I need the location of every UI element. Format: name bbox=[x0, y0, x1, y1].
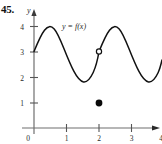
y-tick-label-1: 1 bbox=[20, 99, 24, 108]
y-axis-arrowhead bbox=[31, 9, 36, 16]
x-tick-label-3: 3 bbox=[130, 134, 134, 143]
x-tick-label-4: 4 bbox=[159, 134, 162, 143]
y-tick-label-3: 3 bbox=[20, 48, 24, 57]
x-tick-label-2: 2 bbox=[97, 134, 101, 143]
function-curve-left-branch bbox=[34, 27, 99, 82]
graph-plot: y 4 3 2 1 1 2 3 4 0 y = f(x) bbox=[0, 0, 162, 144]
y-tick-label-4: 4 bbox=[20, 23, 24, 32]
origin-label: 0 bbox=[26, 134, 30, 143]
open-circle-marker bbox=[96, 49, 101, 54]
x-tick-label-1: 1 bbox=[65, 134, 69, 143]
curve-label: y = f(x) bbox=[61, 22, 86, 31]
x-axis-arrowhead bbox=[152, 125, 160, 130]
filled-dot-marker bbox=[96, 100, 103, 107]
y-tick-label-2: 2 bbox=[20, 74, 24, 83]
figure-container: 45. y 4 3 2 1 1 2 3 4 0 y = f(x bbox=[0, 0, 162, 144]
function-curve-right-branch bbox=[99, 27, 162, 82]
y-axis-label: y bbox=[26, 6, 31, 15]
